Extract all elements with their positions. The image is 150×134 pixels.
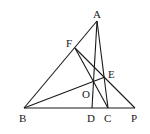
label-f: F <box>66 37 72 49</box>
label-b: B <box>19 112 26 124</box>
label-p: P <box>131 112 137 124</box>
label-e: E <box>108 68 115 80</box>
segment-ac <box>97 21 108 108</box>
label-a: A <box>93 8 101 20</box>
label-c: C <box>104 112 111 124</box>
segment-ad <box>92 21 97 108</box>
label-o: O <box>82 88 90 100</box>
label-d: D <box>87 112 95 124</box>
geometry-diagram: A F E O B D C P <box>0 0 150 134</box>
